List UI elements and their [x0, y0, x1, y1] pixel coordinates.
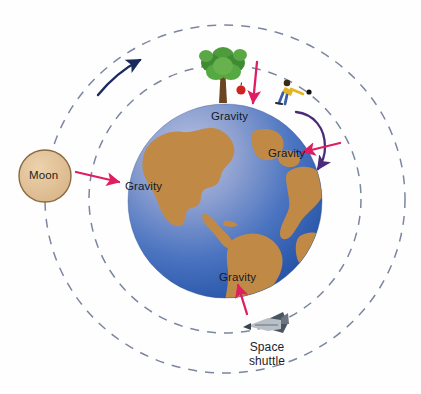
- thrown-ball: [306, 89, 311, 94]
- gravity-label-shuttle: Gravity: [219, 271, 256, 283]
- gravity-diagram: Moon Gravity Gravity Gravity Gravity Spa…: [0, 0, 421, 394]
- person-throwing-ball: [276, 80, 303, 104]
- space-shuttle-label-line2: shuttle: [249, 354, 285, 368]
- moon-label: Moon: [29, 169, 58, 181]
- person-feet: [276, 103, 282, 104]
- tree-foliage: [199, 47, 247, 80]
- gravity-arrow-moon: [76, 172, 119, 182]
- person-legs: [279, 93, 287, 104]
- tree: [199, 47, 247, 103]
- falling-apple: [236, 83, 245, 95]
- gravity-arrow-ball: [303, 143, 340, 152]
- diagram-canvas: [0, 0, 421, 394]
- gravity-label-ball: Gravity: [268, 147, 305, 159]
- shuttle-nose: [243, 323, 251, 330]
- moon-orbit-direction-arrow: [98, 60, 140, 95]
- gravity-label-moon: Gravity: [125, 180, 162, 192]
- gravity-label-apple: Gravity: [211, 110, 248, 122]
- space-shuttle: [243, 312, 289, 333]
- space-shuttle-label: Space shuttle: [232, 340, 302, 368]
- space-shuttle-label-line1: Space: [250, 340, 285, 354]
